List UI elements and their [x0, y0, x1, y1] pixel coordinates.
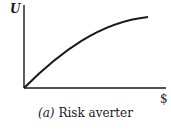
caption-text: Risk averter: [58, 106, 133, 120]
concave-utility-curve: [24, 17, 148, 88]
y-axis-label: U: [10, 2, 20, 16]
figure-caption: (a) Risk averter: [0, 106, 171, 120]
x-axis-label: $: [160, 92, 168, 106]
caption-label: (a): [38, 106, 55, 120]
